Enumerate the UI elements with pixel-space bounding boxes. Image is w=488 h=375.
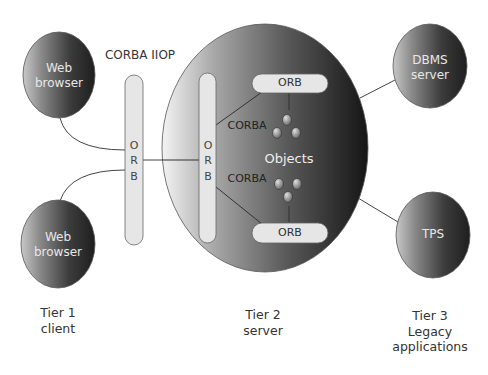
tier2-caption: Tier 2 server [225,307,301,338]
label-line: browser [23,76,95,91]
tier3-caption: Tier 3 Legacy applications [380,308,480,355]
letter: B [199,169,217,184]
orb-top-label: ORB [252,76,328,90]
caption-line: Tier 1 [20,305,96,321]
link-dbms [360,80,395,98]
link-tps [358,198,398,222]
corba-top-label: CORBA [222,119,272,133]
tier1-caption: Tier 1 client [20,305,96,336]
caption-line: Tier 2 [225,307,301,323]
label-line: DBMS [393,53,467,68]
objects-label: Objects [254,151,324,167]
caption-line: Legacy [380,324,480,340]
dbms-server-label: DBMS server [393,53,467,83]
caption-line: server [225,323,301,339]
orb-bus-left-label: O R B [125,138,143,184]
caption-line: Tier 3 [380,308,480,324]
letter: R [199,153,217,168]
web-browser-bottom-label: Web browser [22,230,94,260]
link-browser-bottom-orb [60,170,125,201]
label-line: Web [23,61,95,76]
caption-line: client [20,321,96,337]
letter: O [125,138,143,153]
corba-bottom-label: CORBA [222,172,272,186]
corba-iiop-label: CORBA IIOP [100,48,180,63]
label-line: browser [22,245,94,260]
orb-bus-inner-label: O R B [199,138,217,184]
tps-label: TPS [396,227,470,242]
orb-bottom-label: ORB [252,226,328,240]
web-browser-top-label: Web browser [23,61,95,91]
letter: B [125,169,143,184]
label-line: server [393,68,467,83]
letter: O [199,138,217,153]
letter: R [125,153,143,168]
caption-line: applications [380,339,480,355]
label-line: Web [22,230,94,245]
link-browser-top-orb [60,118,125,150]
